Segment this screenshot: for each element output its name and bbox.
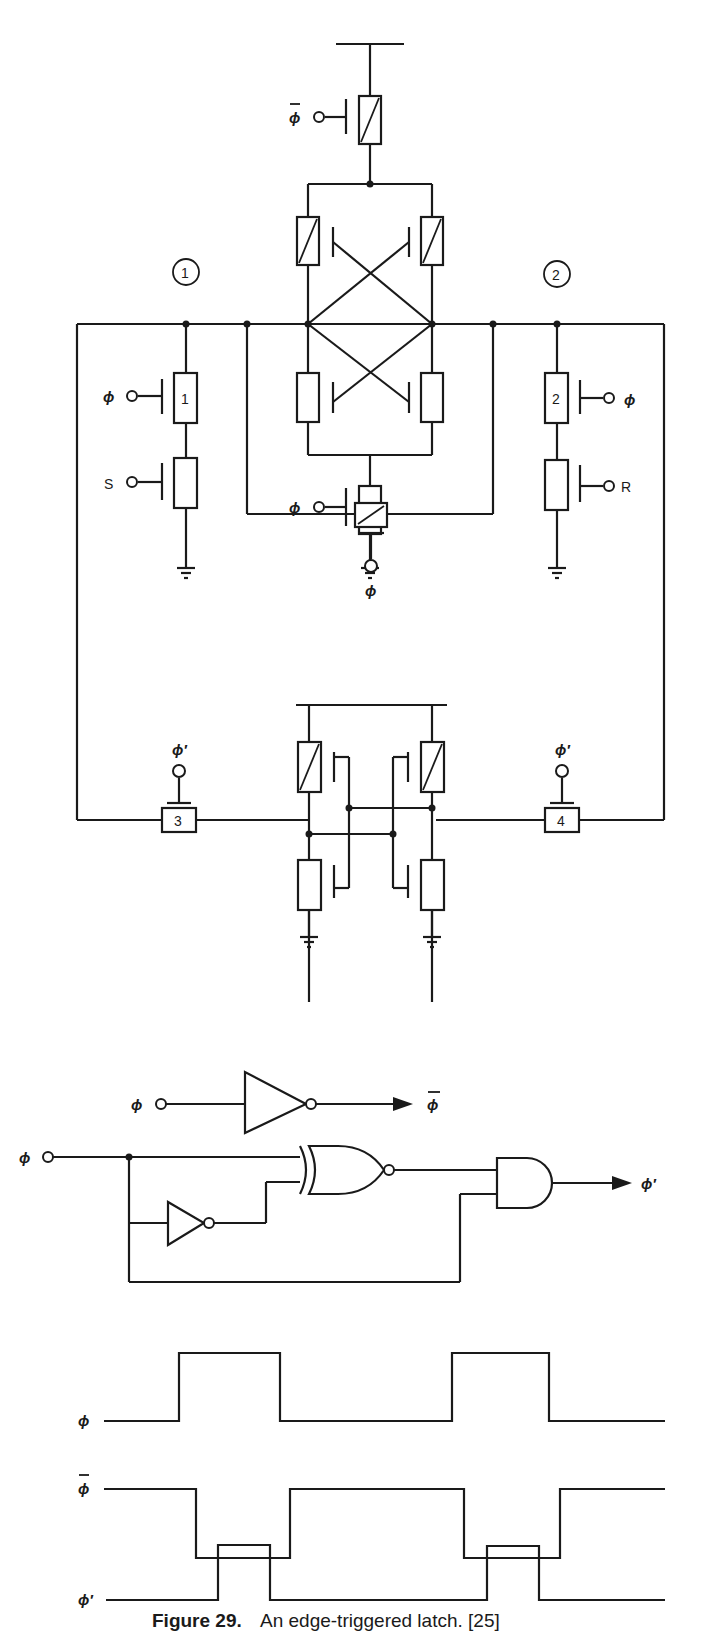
inverter-gate-icon xyxy=(245,1072,306,1133)
timing-signal-phi-prime-label: ϕ′ xyxy=(78,1591,94,1608)
phi-prime-waveform xyxy=(106,1545,665,1600)
transistor-1-label: 1 xyxy=(181,391,189,407)
edge-triggered-latch-figure: ϕ xyxy=(0,0,702,1632)
figure-caption: Figure 29. An edge-triggered latch. [25] xyxy=(152,1610,500,1631)
transistor-3-label: 3 xyxy=(174,813,182,829)
phi-waveform xyxy=(104,1353,665,1421)
figure-number: Figure 29. xyxy=(152,1610,242,1631)
and-gate-icon xyxy=(497,1158,552,1208)
phi-prime-input-label-4: ϕ′ xyxy=(555,741,571,758)
transistor-2-label: 2 xyxy=(552,391,560,407)
latch-circuit: ϕ xyxy=(77,44,664,1002)
phi-bar-inverter-circuit: ϕ ϕ xyxy=(131,1072,440,1133)
node-2-label: 2 xyxy=(552,267,560,283)
phi-input-label-right: ϕ xyxy=(624,391,635,408)
phi-prime-pulse-generator: ϕ ϕ′ xyxy=(19,1146,657,1282)
pulse-gen-output-label: ϕ′ xyxy=(641,1175,657,1192)
transistor-4-label: 4 xyxy=(557,813,565,829)
phi-input-label-left: ϕ xyxy=(103,388,114,405)
timing-signal-phi-bar-label: ϕ xyxy=(78,1480,89,1497)
reset-input-label: R xyxy=(621,479,631,495)
small-inverter-icon xyxy=(168,1202,204,1245)
xnor-gate-icon xyxy=(300,1146,306,1194)
phi-input-label-tgate: ϕ xyxy=(365,582,376,599)
set-input-label: S xyxy=(104,476,113,492)
pulse-gen-input-label: ϕ xyxy=(19,1149,30,1166)
inverter-output-label: ϕ xyxy=(427,1096,438,1113)
node-1-label: 1 xyxy=(181,265,189,281)
inverter-input-label: ϕ xyxy=(131,1096,142,1113)
timing-diagram: ϕ ϕ ϕ′ xyxy=(78,1353,665,1608)
figure-caption-text: An edge-triggered latch. [25] xyxy=(260,1610,500,1631)
phi-bar-input-label: ϕ xyxy=(289,109,300,126)
phi-bar-waveform xyxy=(104,1489,665,1558)
phi-prime-input-label-3: ϕ′ xyxy=(172,741,188,758)
timing-signal-phi-label: ϕ xyxy=(78,1412,89,1429)
